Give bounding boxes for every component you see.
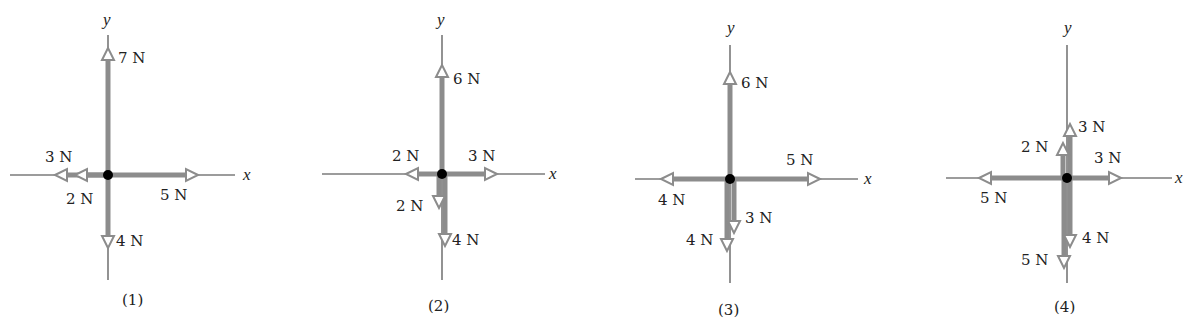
y-axis-label: y	[725, 18, 735, 37]
arrowhead-up-icon	[436, 65, 448, 77]
arrowhead-right-icon	[1109, 172, 1121, 184]
force-diagram-1: xy7 N5 N3 N2 N4 N(1)	[10, 10, 251, 309]
arrowhead-up-icon	[724, 72, 736, 84]
arrowhead-down-icon	[439, 234, 451, 246]
force-label: 2 N	[392, 147, 419, 165]
force-label: 3 N	[468, 147, 495, 165]
diagram-caption: (4)	[1054, 298, 1075, 316]
force-label: 2 N	[396, 197, 423, 215]
arrowhead-down-icon	[1058, 256, 1070, 268]
arrowhead-left-icon	[979, 172, 991, 184]
force-label: 5 N	[980, 189, 1007, 207]
arrowhead-up-icon	[1064, 124, 1076, 136]
arrowhead-down-icon	[102, 236, 114, 248]
particle-dot	[725, 174, 735, 184]
arrowhead-right-icon	[186, 169, 198, 181]
arrowhead-right-icon	[808, 173, 820, 185]
force-label: 5 N	[1021, 251, 1048, 269]
force-label: 3 N	[1078, 118, 1105, 136]
diagram-caption: (2)	[428, 297, 449, 315]
arrowhead-left-icon	[406, 168, 418, 180]
arrowhead-up-icon	[102, 48, 114, 60]
force-diagrams-svg: xy7 N5 N3 N2 N4 N(1)xy6 N3 N2 N2 N4 N(2)…	[0, 0, 1195, 336]
y-axis-label: y	[101, 10, 111, 29]
force-label: 6 N	[741, 74, 768, 92]
diagram-caption: (1)	[122, 291, 143, 309]
arrowhead-down-icon	[721, 239, 733, 251]
force-label: 4 N	[116, 232, 143, 250]
x-axis-label: x	[863, 169, 872, 188]
x-axis-label: x	[1174, 168, 1183, 187]
force-label: 2 N	[66, 190, 93, 208]
force-label: 4 N	[1082, 229, 1109, 247]
force-label: 7 N	[118, 49, 145, 67]
arrowhead-left-icon	[75, 169, 87, 181]
force-label: 3 N	[745, 209, 772, 227]
arrowhead-left-icon	[55, 169, 67, 181]
force-diagram-2: xy6 N3 N2 N2 N4 N(2)	[322, 10, 557, 315]
force-label: 6 N	[453, 70, 480, 88]
x-axis-label: x	[242, 165, 251, 184]
force-label: 4 N	[452, 231, 479, 249]
particle-dot	[1062, 173, 1072, 183]
force-label: 4 N	[658, 191, 685, 209]
force-diagrams-figure: xy7 N5 N3 N2 N4 N(1)xy6 N3 N2 N2 N4 N(2)…	[0, 0, 1195, 336]
force-label: 2 N	[1021, 138, 1048, 156]
arrowhead-right-icon	[485, 168, 497, 180]
particle-dot	[103, 170, 113, 180]
particle-dot	[437, 169, 447, 179]
force-diagram-4: xy3 N2 N3 N5 N4 N5 N(4)	[946, 18, 1183, 316]
y-axis-label: y	[1062, 18, 1072, 37]
force-label: 3 N	[1094, 149, 1121, 167]
force-label: 4 N	[686, 231, 713, 249]
diagram-caption: (3)	[718, 301, 739, 319]
x-axis-label: x	[548, 164, 557, 183]
force-label: 5 N	[160, 186, 187, 204]
y-axis-label: y	[435, 10, 445, 29]
force-label: 5 N	[786, 151, 813, 169]
force-diagram-3: xy6 N5 N4 N3 N4 N(3)	[635, 18, 872, 319]
force-label: 3 N	[45, 148, 72, 166]
arrowhead-left-icon	[661, 173, 673, 185]
